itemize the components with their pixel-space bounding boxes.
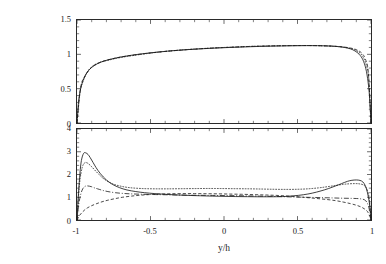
x-axis-label: y/h (184, 243, 264, 253)
xtick-neg0p5: -0.5 (130, 226, 170, 236)
rms-velocity-plot (77, 129, 371, 220)
xtick-0: 0 (204, 226, 244, 236)
top-ytick-0p5: 0.5 (42, 84, 71, 94)
top-ytick-1: 1 (42, 49, 71, 59)
xtick-neg1: -1 (56, 226, 96, 236)
curve-dotted-upper (77, 163, 371, 220)
figure-container: <u>/Um 00.511.5 urms/uτ 01234 -1-0.500.5… (0, 0, 386, 264)
bottom-ytick-1: 1 (42, 192, 71, 202)
curve-dash-dot (77, 186, 371, 220)
bottom-ytick-2: 2 (42, 169, 71, 179)
rms-velocity-panel (76, 128, 372, 221)
bottom-ytick-3: 3 (42, 146, 71, 156)
xtick-0p5: 0.5 (278, 226, 318, 236)
bottom-ytick-0: 0 (42, 216, 71, 226)
top-ytick-1p5: 1.5 (42, 14, 71, 24)
curve-solid (77, 46, 371, 123)
mean-velocity-plot (77, 20, 371, 123)
bottom-ytick-4: 4 (42, 123, 71, 133)
xtick-1: 1 (352, 226, 386, 236)
mean-velocity-panel (76, 19, 372, 124)
